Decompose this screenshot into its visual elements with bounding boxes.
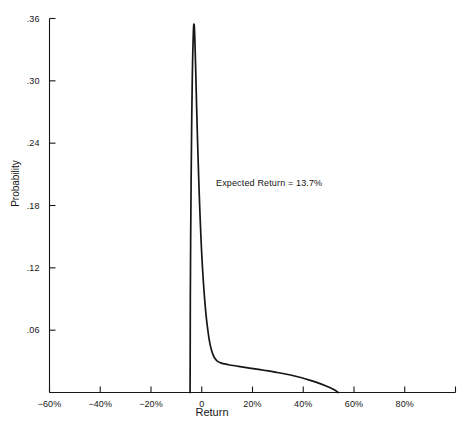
probability-return-chart: .36.30.24.18.12.06 −60%−40%−20%020%40%60… [0,0,465,431]
x-tick-label: 40% [283,399,323,409]
x-tick-label: 80% [385,399,425,409]
expected-return-annotation: Expected Return = 13.7% [216,178,322,188]
x-axis-title: Return [182,406,242,418]
y-tick-label: .06 [10,325,40,335]
distribution-curve [190,24,338,392]
y-tick-label: .30 [10,76,40,86]
y-tick-marks [50,19,56,331]
axis-lines [50,19,456,393]
x-tick-label: −60% [30,399,70,409]
x-tick-label: 60% [334,399,374,409]
y-tick-label: .12 [10,263,40,273]
y-tick-label: .36 [10,14,40,24]
chart-plot-area [0,0,465,431]
y-axis-title: Probability [10,139,21,229]
x-tick-label: −40% [80,399,120,409]
x-tick-label: −20% [131,399,171,409]
x-tick-marks [50,387,456,393]
